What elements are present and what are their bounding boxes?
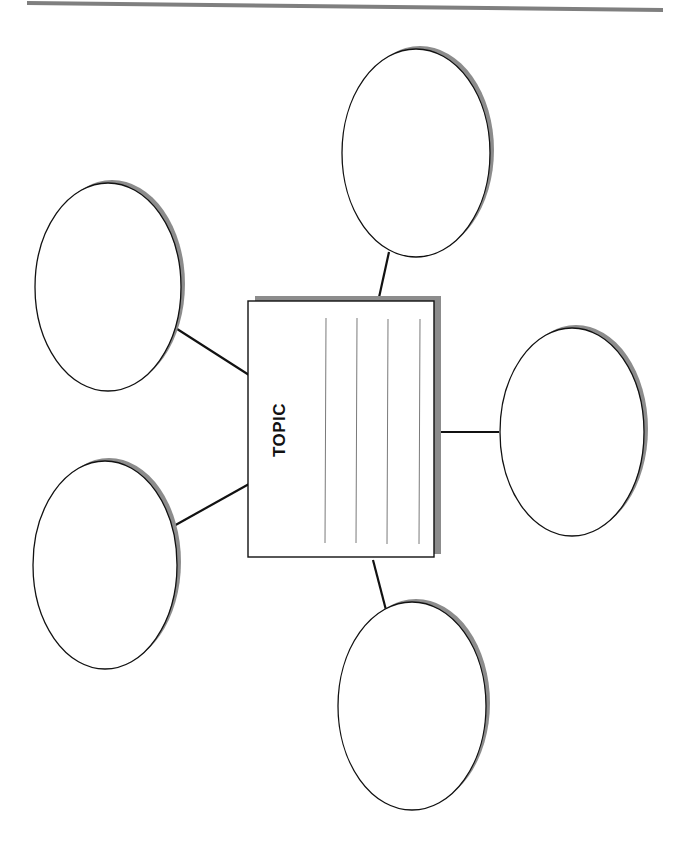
topic-label: TOPIC xyxy=(270,403,290,457)
bubble-top-right[interactable] xyxy=(342,49,490,257)
connector-top-right xyxy=(378,252,389,302)
bubble-upper-left[interactable] xyxy=(35,183,181,391)
bubble-lower-left[interactable] xyxy=(33,461,177,669)
connector-upper-left xyxy=(174,327,249,375)
connector-bottom xyxy=(373,560,386,610)
concept-web-diagram xyxy=(0,0,687,851)
bubble-right[interactable] xyxy=(500,328,644,536)
connector-lower-left xyxy=(172,484,249,527)
bubble-bottom[interactable] xyxy=(338,602,486,810)
header-rule xyxy=(27,3,663,10)
